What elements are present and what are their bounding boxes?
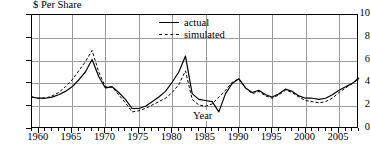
series-line-actual — [32, 56, 359, 112]
legend-line-swatch-icon — [159, 18, 179, 26]
legend-item-simulated: simulated — [159, 28, 225, 40]
legend-item-actual: actual — [159, 16, 225, 28]
legend-line-swatch-icon — [159, 30, 179, 38]
legend-label: actual — [184, 17, 209, 28]
chart-figure: $ Per Share 0246810 19601965197019751980… — [0, 0, 370, 162]
legend-label: simulated — [184, 29, 225, 40]
y-axis-title: $ Per Share — [33, 0, 81, 10]
x-axis-title: Year — [191, 110, 214, 121]
series-line-simulated — [32, 50, 359, 112]
x-tick-label: 2005 — [318, 131, 358, 142]
chart-legend: actualsimulated — [159, 16, 225, 40]
